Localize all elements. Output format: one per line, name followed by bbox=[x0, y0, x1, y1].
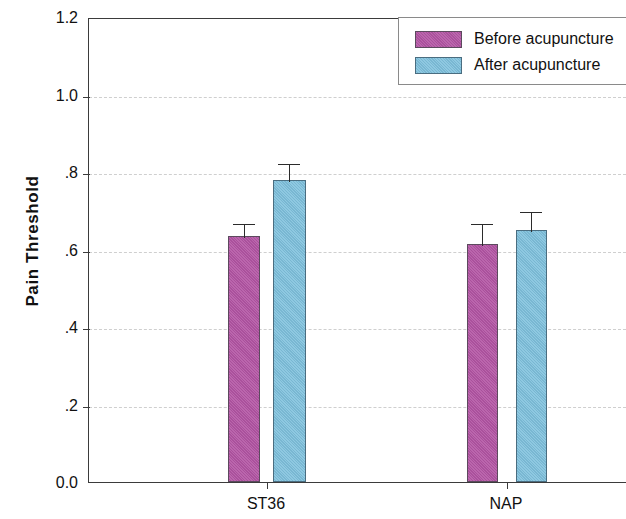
error-bar-cap-nap-after bbox=[520, 212, 542, 213]
plot-area bbox=[88, 18, 626, 483]
legend-item-before[interactable]: Before acupuncture bbox=[415, 30, 614, 48]
legend-swatch-before-icon bbox=[415, 31, 462, 48]
legend-item-after[interactable]: After acupuncture bbox=[415, 56, 600, 74]
y-tick-mark bbox=[83, 407, 90, 408]
x-axis-label-nap: NAP bbox=[490, 495, 523, 513]
error-bar-cap-nap-before bbox=[471, 224, 493, 225]
legend-swatch-after-icon bbox=[415, 57, 462, 74]
y-tick-label: 1.2 bbox=[32, 10, 78, 26]
x-tick-mark bbox=[267, 482, 268, 489]
y-axis-tick-labels: 1.2 1.0 .8 .6 .4 .2 0.0 bbox=[32, 0, 78, 519]
bar-st36-before[interactable] bbox=[228, 236, 260, 482]
y-tick-mark bbox=[83, 252, 90, 253]
error-bar-nap-after bbox=[531, 212, 532, 232]
error-bar-st36-after bbox=[289, 164, 290, 182]
bar-chart: Pain Threshold 1.2 1.0 .8 .6 .4 .2 0.0 bbox=[0, 0, 626, 519]
y-tick-label: .4 bbox=[32, 320, 78, 336]
y-tick-label: 0.0 bbox=[32, 475, 78, 491]
bar-st36-after[interactable] bbox=[273, 180, 306, 482]
error-bar-cap-st36-before bbox=[233, 224, 255, 225]
gridline bbox=[89, 97, 626, 98]
y-tick-mark bbox=[83, 174, 90, 175]
y-tick-mark bbox=[83, 329, 90, 330]
bar-nap-before[interactable] bbox=[467, 244, 498, 482]
legend-label-before: Before acupuncture bbox=[474, 30, 614, 48]
y-tick-label: 1.0 bbox=[32, 88, 78, 104]
y-tick-label: .6 bbox=[32, 243, 78, 259]
error-bar-cap-st36-after bbox=[278, 164, 300, 165]
y-tick-mark bbox=[83, 97, 90, 98]
x-tick-mark bbox=[507, 482, 508, 489]
legend: Before acupuncture After acupuncture bbox=[398, 17, 626, 85]
y-tick-label: .8 bbox=[32, 165, 78, 181]
error-bar-st36-before bbox=[244, 224, 245, 238]
bar-nap-after[interactable] bbox=[516, 230, 547, 482]
x-axis-label-st36: ST36 bbox=[247, 495, 285, 513]
error-bar-nap-before bbox=[482, 224, 483, 246]
legend-label-after: After acupuncture bbox=[474, 56, 600, 74]
gridline bbox=[89, 174, 626, 175]
y-tick-label: .2 bbox=[32, 398, 78, 414]
